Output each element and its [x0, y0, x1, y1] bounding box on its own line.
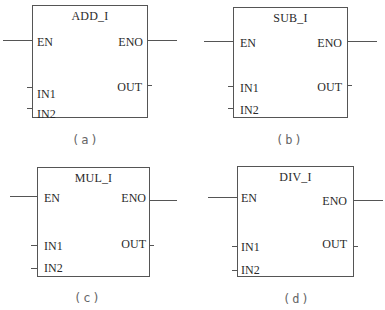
eno-wire [353, 200, 383, 201]
out-label: OUT [322, 238, 347, 250]
en-label: EN [240, 37, 256, 49]
out-wire [147, 85, 152, 86]
caption-b: (b) [276, 133, 304, 147]
eno-label: ENO [121, 192, 146, 204]
out-wire [149, 245, 154, 246]
out-label: OUT [117, 81, 142, 93]
block-title: SUB_I [234, 11, 347, 26]
caption-c: (c) [74, 291, 102, 305]
in1-label: IN1 [37, 88, 56, 100]
in2-label: IN2 [240, 104, 259, 116]
block-title: DIV_I [238, 170, 353, 185]
eno-wire [147, 40, 177, 41]
in1-label: IN1 [44, 240, 63, 252]
en-label: EN [44, 192, 60, 204]
block-title: MUL_I [38, 171, 149, 186]
en-label: EN [241, 192, 257, 204]
block-box: MUL_I EN IN1 IN2 ENO OUT [37, 167, 150, 277]
in2-label: IN2 [37, 108, 56, 120]
eno-label: ENO [118, 36, 143, 48]
block-box: ADD_I EN IN1 IN2 ENO OUT [32, 5, 148, 118]
in1-label: IN1 [241, 241, 260, 253]
en-wire [208, 197, 237, 198]
eno-wire [347, 41, 377, 42]
eno-wire [149, 200, 177, 201]
en-wire [204, 41, 233, 42]
block-box: SUB_I EN IN1 IN2 ENO OUT [233, 7, 348, 118]
out-wire [347, 85, 352, 86]
block-title: ADD_I [33, 9, 147, 24]
out-wire [353, 246, 358, 247]
out-label: OUT [121, 238, 146, 250]
en-wire [10, 196, 37, 197]
eno-label: ENO [317, 37, 342, 49]
in2-label: IN2 [241, 264, 260, 276]
caption-a: (a) [72, 133, 100, 147]
block-box: DIV_I EN IN1 IN2 ENO OUT [237, 166, 354, 277]
en-wire [3, 40, 32, 41]
caption-d: (d) [283, 292, 311, 306]
in2-label: IN2 [44, 262, 63, 274]
eno-label: ENO [322, 195, 347, 207]
in1-label: IN1 [240, 82, 259, 94]
en-label: EN [37, 36, 53, 48]
out-label: OUT [317, 81, 342, 93]
